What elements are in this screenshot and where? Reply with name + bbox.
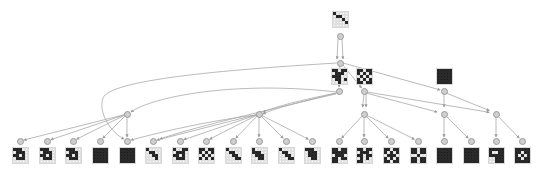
root-node bbox=[337, 33, 344, 40]
grid-cell bbox=[449, 160, 452, 163]
hub-node bbox=[493, 111, 500, 118]
leaf-node bbox=[361, 138, 368, 145]
tree-edge bbox=[263, 94, 336, 114]
tree-edge bbox=[444, 114, 468, 138]
leaf-node bbox=[468, 138, 475, 145]
leaf-grid bbox=[252, 148, 267, 163]
grid-cell bbox=[423, 160, 426, 163]
leaf-grid bbox=[93, 148, 108, 163]
leaf-node bbox=[44, 138, 51, 145]
leaf-grid bbox=[279, 148, 294, 163]
tree-edge bbox=[259, 114, 308, 139]
hub-node bbox=[124, 111, 131, 118]
root-grid bbox=[333, 12, 348, 27]
tree-edge bbox=[342, 114, 364, 138]
leaf-grid bbox=[437, 148, 452, 163]
leaf-grid bbox=[515, 148, 530, 163]
leaf-node bbox=[415, 138, 422, 145]
grid-cell bbox=[291, 160, 294, 163]
grid-cell bbox=[25, 160, 28, 163]
tree-edge bbox=[342, 39, 343, 59]
tree-edge bbox=[364, 114, 388, 138]
leaf-node bbox=[441, 138, 448, 145]
grid-cell bbox=[317, 160, 320, 163]
tree-edge bbox=[103, 114, 127, 138]
leaf-node bbox=[97, 138, 104, 145]
leaf-node bbox=[177, 138, 184, 145]
grid-cell bbox=[211, 160, 214, 163]
leaf-node bbox=[17, 138, 24, 145]
level1-grid bbox=[437, 69, 452, 84]
leaf-node bbox=[283, 138, 290, 145]
leaf-grid bbox=[384, 148, 399, 163]
grid-cell bbox=[52, 160, 55, 163]
leaf-grid bbox=[411, 148, 426, 163]
tree-edge bbox=[51, 114, 127, 140]
leaf-node bbox=[336, 138, 343, 145]
leaf-grid bbox=[173, 148, 188, 163]
leaf-node bbox=[519, 138, 526, 145]
leaf-node bbox=[309, 138, 316, 145]
tree-edge bbox=[131, 88, 337, 112]
hub-node bbox=[441, 111, 448, 118]
tree-edge bbox=[496, 114, 519, 138]
leaf-grid bbox=[13, 148, 28, 163]
grid-cell bbox=[449, 81, 452, 84]
grid-cell bbox=[476, 160, 479, 163]
level1-node bbox=[361, 88, 368, 95]
tree-edges bbox=[0, 0, 542, 172]
level1-grid bbox=[357, 69, 372, 84]
grid-cell bbox=[501, 160, 504, 163]
grid-cell bbox=[369, 160, 372, 163]
leaf-node bbox=[124, 138, 131, 145]
leaf-grid bbox=[146, 148, 161, 163]
leaf-node bbox=[493, 138, 500, 145]
grid-cell bbox=[527, 160, 530, 163]
leaf-grid bbox=[120, 148, 135, 163]
level1-grid bbox=[332, 69, 347, 84]
tree-edge bbox=[259, 114, 283, 138]
leaf-node bbox=[230, 138, 237, 145]
leaf-grid bbox=[305, 148, 320, 163]
leaf-node bbox=[150, 138, 157, 145]
leaf-grid bbox=[40, 148, 55, 163]
expand-node bbox=[337, 60, 344, 67]
grid-cell bbox=[158, 160, 161, 163]
level1-node bbox=[336, 88, 343, 95]
tree-edge bbox=[446, 93, 489, 111]
leaf-grid bbox=[332, 148, 347, 163]
search-tree-diagram bbox=[0, 0, 542, 172]
hub-node bbox=[256, 111, 263, 118]
tree-edge bbox=[337, 39, 338, 59]
grid-cell bbox=[105, 160, 108, 163]
leaf-grid bbox=[489, 148, 504, 163]
leaf-node bbox=[70, 138, 77, 145]
tree-edge bbox=[77, 114, 127, 139]
leaf-grid bbox=[357, 148, 372, 163]
grid-cell bbox=[344, 160, 347, 163]
grid-cell bbox=[132, 160, 135, 163]
tree-edge bbox=[184, 114, 259, 140]
leaf-node bbox=[203, 138, 210, 145]
leaf-grid bbox=[226, 148, 241, 163]
grid-cell bbox=[369, 81, 372, 84]
leaf-grid bbox=[66, 148, 81, 163]
leaf-node bbox=[256, 138, 263, 145]
tree-edge bbox=[364, 114, 414, 139]
grid-cell bbox=[78, 160, 81, 163]
grid-cell bbox=[345, 24, 348, 27]
grid-cell bbox=[344, 81, 347, 84]
level1-node bbox=[441, 88, 448, 95]
hub-node bbox=[361, 111, 368, 118]
tree-edge bbox=[24, 114, 127, 140]
grid-cell bbox=[396, 160, 399, 163]
grid-cell bbox=[185, 160, 188, 163]
leaf-node bbox=[388, 138, 395, 145]
tree-edge bbox=[157, 114, 259, 140]
tree-edge bbox=[366, 93, 437, 112]
leaf-grid bbox=[464, 148, 479, 163]
grid-cell bbox=[264, 160, 267, 163]
leaf-grid bbox=[199, 148, 214, 163]
grid-cell bbox=[238, 160, 241, 163]
tree-edge bbox=[363, 94, 365, 107]
